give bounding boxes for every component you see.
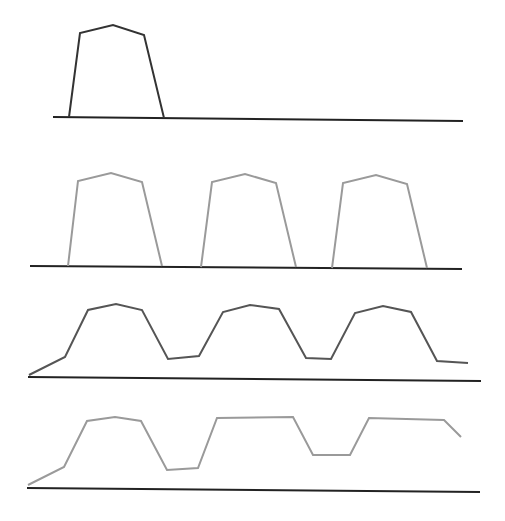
waveform-line (29, 304, 468, 375)
baseline-axis (28, 377, 481, 381)
baseline-axis (30, 266, 462, 269)
waveform-line (28, 417, 461, 485)
pulse-line (332, 175, 427, 268)
pulse-line (201, 174, 296, 267)
waveform-line (69, 25, 164, 118)
panel-pulse-train (30, 173, 462, 269)
panel-smoothed-pulse-train (28, 304, 481, 381)
baseline-axis (27, 488, 480, 492)
panel-distorted-pulse-train (27, 417, 480, 492)
pulse-line (68, 173, 162, 266)
baseline-axis (53, 117, 463, 121)
waveform-diagram (0, 0, 505, 521)
panel-single-pulse (53, 25, 463, 121)
